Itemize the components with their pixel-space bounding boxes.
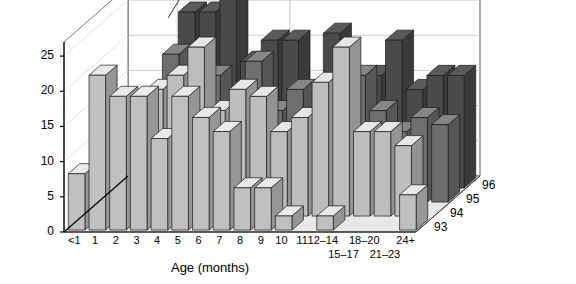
x-axis-tick-label: 18–20: [342, 234, 386, 246]
chart-container: Patients Age (months) 0510152025<1123456…: [0, 0, 576, 284]
bar-93-24+: [400, 185, 428, 230]
bar-front-face: [130, 96, 147, 230]
y-axis-tick-label: 15: [28, 119, 54, 131]
y-axis-tick-label: 25: [28, 49, 54, 61]
x-axis-tick-label: 21–23: [363, 248, 407, 260]
bar-front-face: [333, 47, 350, 216]
bar-front-face: [213, 132, 230, 231]
bar-front-face: [151, 139, 168, 230]
bar-front-face: [110, 96, 127, 230]
bar-front-face: [234, 188, 251, 230]
bar-front-face: [353, 132, 370, 216]
y-axis-tick-label: 5: [28, 190, 54, 202]
y-axis-tick-label: 10: [28, 155, 54, 167]
bar-front-face: [291, 118, 308, 217]
z-axis-tick-label: 95: [466, 193, 479, 205]
z-axis-tick-label: 93: [434, 221, 447, 233]
z-axis-tick-label: 94: [450, 207, 463, 219]
bar-side-face: [448, 115, 460, 202]
y-axis-tick-label: 20: [28, 84, 54, 96]
z-axis-tick-label: 96: [482, 179, 495, 191]
y-axis-tick-label: 0: [28, 225, 54, 237]
bar-front-face: [193, 117, 210, 230]
bar-front-face: [400, 195, 417, 230]
bar-front-face: [432, 125, 449, 202]
bar-side-face: [464, 65, 476, 188]
bar-front-face: [374, 132, 391, 216]
bar-front-face: [317, 216, 334, 230]
bar-front-face: [172, 96, 189, 230]
x-axis-tick-label: 12–14: [301, 234, 345, 246]
bar-front-face: [275, 216, 292, 230]
x-axis-tick-label: 24+: [384, 234, 428, 246]
bar-95-24+: [432, 115, 460, 202]
bar-front-face: [312, 82, 329, 216]
bar-front-face: [255, 188, 272, 230]
x-axis-tick-label: 15–17: [322, 248, 366, 260]
bar-front-face: [89, 75, 106, 230]
